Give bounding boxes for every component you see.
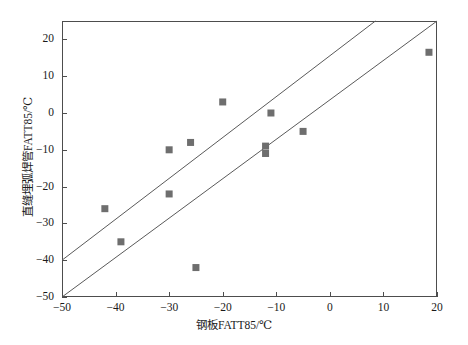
upper-bound-line bbox=[62, 21, 375, 260]
y-tick-mark bbox=[62, 187, 67, 188]
data-point-marker bbox=[425, 49, 432, 56]
y-tick-mark bbox=[62, 39, 67, 40]
data-point-marker bbox=[192, 264, 199, 271]
data-point-marker bbox=[166, 190, 173, 197]
data-point-marker bbox=[300, 128, 307, 135]
data-point-marker bbox=[262, 143, 269, 150]
x-tick-label: −10 bbox=[256, 301, 296, 314]
x-tick-mark bbox=[276, 292, 277, 297]
lower-bound-line bbox=[62, 21, 437, 297]
data-points-group bbox=[101, 49, 432, 271]
y-tick-mark bbox=[62, 260, 67, 261]
x-tick-mark bbox=[330, 292, 331, 297]
y-tick-label: 20 bbox=[14, 32, 54, 45]
y-tick-mark bbox=[62, 76, 67, 77]
x-tick-label: 10 bbox=[363, 301, 403, 314]
scatter-chart-figure: −50−40−30−20−1001020 20100−10−20−30−40−5… bbox=[0, 0, 468, 345]
y-axis-title: 直缝埋弧焊管FATT85/℃ bbox=[19, 57, 35, 257]
x-tick-mark bbox=[437, 292, 438, 297]
x-tick-mark bbox=[169, 292, 170, 297]
y-tick-mark bbox=[62, 150, 67, 151]
data-point-marker bbox=[187, 139, 194, 146]
data-point-marker bbox=[267, 110, 274, 117]
data-point-marker bbox=[219, 98, 226, 105]
x-tick-label: −40 bbox=[96, 301, 136, 314]
x-tick-mark bbox=[116, 292, 117, 297]
x-tick-label: 20 bbox=[417, 301, 457, 314]
data-point-marker bbox=[166, 146, 173, 153]
data-point-marker bbox=[262, 150, 269, 157]
y-tick-mark bbox=[62, 297, 67, 298]
x-tick-label: −20 bbox=[203, 301, 243, 314]
y-tick-mark bbox=[62, 223, 67, 224]
x-tick-label: 0 bbox=[310, 301, 350, 314]
y-tick-mark bbox=[62, 113, 67, 114]
data-point-marker bbox=[117, 238, 124, 245]
reference-lines-group bbox=[62, 21, 437, 297]
x-tick-mark bbox=[383, 292, 384, 297]
data-point-marker bbox=[101, 205, 108, 212]
x-tick-mark bbox=[223, 292, 224, 297]
y-tick-label: −50 bbox=[14, 290, 54, 303]
plot-canvas bbox=[62, 21, 437, 297]
x-axis-title: 钢板FATT85/℃ bbox=[0, 316, 468, 332]
x-tick-label: −30 bbox=[149, 301, 189, 314]
